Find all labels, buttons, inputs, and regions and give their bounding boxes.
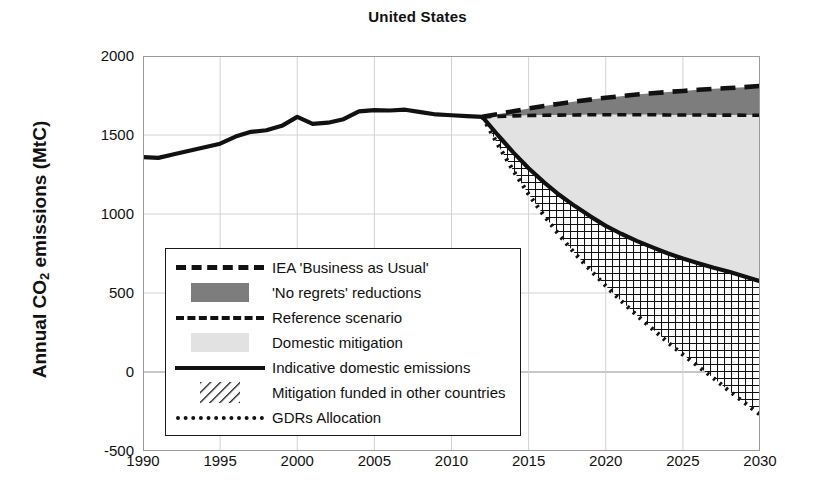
x-tick-label: 2015 xyxy=(499,452,559,469)
chart-root: United States Annual CO2 emissions (MtC)… xyxy=(0,0,835,504)
dashed-thick-line-icon xyxy=(174,257,266,278)
hatched-swatch-icon xyxy=(174,382,266,403)
legend-label: GDRs Allocation xyxy=(272,410,381,425)
chart-legend: IEA 'Business as Usual' 'No regrets' red… xyxy=(165,248,521,436)
y-axis-ticks: 2000150010005000-500 xyxy=(72,0,134,504)
legend-label: Indicative domestic emissions xyxy=(272,360,470,375)
hatch-swatch-svg xyxy=(200,382,240,403)
legend-item-funded-other: Mitigation funded in other countries xyxy=(174,380,512,405)
legend-item-domestic-mitigation: Domestic mitigation xyxy=(174,330,512,355)
y-tick-label: 1500 xyxy=(74,126,134,143)
legend-label: Reference scenario xyxy=(272,310,402,325)
x-tick-label: 2025 xyxy=(653,452,713,469)
y-tick-label: 1000 xyxy=(74,205,134,222)
legend-item-reference: Reference scenario xyxy=(174,305,512,330)
legend-label: IEA 'Business as Usual' xyxy=(272,260,429,275)
dotted-line-icon xyxy=(174,407,266,428)
legend-item-bau: IEA 'Business as Usual' xyxy=(174,255,512,280)
band--no-regrets-reductions xyxy=(482,86,760,117)
legend-item-no-regrets: 'No regrets' reductions xyxy=(174,280,512,305)
legend-label: 'No regrets' reductions xyxy=(272,285,421,300)
x-tick-label: 2000 xyxy=(267,452,327,469)
legend-item-indicative: Indicative domestic emissions xyxy=(174,355,512,380)
y-tick-label: 500 xyxy=(74,284,134,301)
dashed-line-icon xyxy=(174,307,266,328)
y-axis-title-text: Annual CO2 emissions (MtC) xyxy=(29,121,50,378)
y-tick-label: 0 xyxy=(74,363,134,380)
x-tick-label: 2030 xyxy=(730,452,790,469)
solid-line-icon xyxy=(174,357,266,378)
y-axis-title: Annual CO2 emissions (MtC) xyxy=(29,50,52,450)
x-tick-label: 2010 xyxy=(422,452,482,469)
area-bands xyxy=(482,86,760,415)
legend-item-gdrs: GDRs Allocation xyxy=(174,405,512,430)
y-tick-label: 2000 xyxy=(74,47,134,64)
x-tick-label: 1990 xyxy=(113,452,173,469)
light-gray-swatch-icon xyxy=(174,332,266,353)
series-historical-common-trunk xyxy=(143,110,482,158)
dark-gray-swatch-icon xyxy=(174,282,266,303)
x-tick-label: 2020 xyxy=(576,452,636,469)
legend-label: Domestic mitigation xyxy=(272,335,403,350)
legend-label: Mitigation funded in other countries xyxy=(272,385,505,400)
x-tick-label: 1995 xyxy=(190,452,250,469)
x-tick-label: 2005 xyxy=(344,452,404,469)
